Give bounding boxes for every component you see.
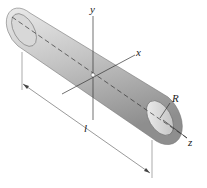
radius-label: R: [172, 93, 179, 104]
y-axis-label: y: [90, 4, 95, 15]
diagram: y x z R l: [0, 0, 207, 188]
z-axis-label: z: [188, 137, 192, 148]
length-label: l: [84, 123, 87, 134]
z-axis: [12, 17, 187, 138]
x-axis-label: x: [136, 47, 141, 58]
